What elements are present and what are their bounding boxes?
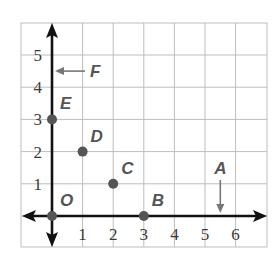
arrowhead-icon bbox=[55, 67, 64, 75]
pointer-f: F bbox=[55, 62, 101, 81]
point-dot-icon bbox=[108, 179, 118, 189]
point-dot-icon bbox=[139, 211, 149, 221]
coordinate-plane: 12345612345 AF OBCDE bbox=[0, 0, 280, 260]
point-dot-icon bbox=[47, 211, 57, 221]
point-dot-icon bbox=[47, 114, 57, 124]
y-tick-label: 4 bbox=[34, 78, 43, 97]
pointer-a: A bbox=[213, 159, 226, 213]
x-tick-label: 6 bbox=[231, 225, 240, 244]
tick-labels: 12345612345 bbox=[34, 46, 240, 244]
point-label-e: E bbox=[60, 94, 72, 113]
point-label-b: B bbox=[152, 191, 164, 210]
x-tick-label: 2 bbox=[109, 225, 118, 244]
point-label-d: D bbox=[91, 127, 103, 146]
point-label-a: A bbox=[213, 159, 226, 178]
point-label-c: C bbox=[121, 159, 134, 178]
y-tick-label: 3 bbox=[34, 110, 43, 129]
y-tick-label: 1 bbox=[34, 175, 43, 194]
y-tick-label: 2 bbox=[34, 143, 43, 162]
plotted-points: OBCDE bbox=[47, 94, 164, 221]
x-tick-label: 4 bbox=[170, 225, 179, 244]
point-label-o: O bbox=[60, 191, 73, 210]
x-tick-label: 1 bbox=[78, 225, 87, 244]
x-tick-label: 3 bbox=[140, 225, 149, 244]
pointer-arrows: AF bbox=[55, 62, 226, 213]
x-tick-label: 5 bbox=[201, 225, 210, 244]
point-label-f: F bbox=[90, 62, 101, 81]
point-dot-icon bbox=[78, 147, 88, 157]
arrowhead-icon bbox=[216, 204, 224, 213]
y-tick-label: 5 bbox=[34, 46, 43, 65]
